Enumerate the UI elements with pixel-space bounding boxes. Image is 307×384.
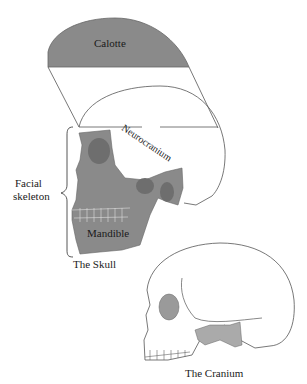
mandible-label: Mandible — [87, 227, 129, 239]
facial-skeleton-label-line1: Facial — [15, 177, 42, 189]
facial-skeleton-label-line2: skeleton — [13, 190, 50, 202]
calotte-label: Calotte — [94, 37, 126, 49]
orbit-dark — [88, 138, 110, 164]
cranium-orbit — [159, 294, 179, 320]
zygomatic-dark — [136, 178, 154, 194]
connector-right — [189, 67, 218, 128]
connector-left — [48, 67, 79, 127]
temporal-dark — [160, 182, 174, 202]
facial-bracket — [61, 127, 73, 257]
cranium-caption: The Cranium — [185, 367, 243, 379]
cranium-temporal-line — [181, 278, 262, 322]
cranium-zygomatic — [195, 322, 242, 347]
cranium-teeth — [145, 350, 190, 360]
skull-caption: The Skull — [73, 258, 116, 270]
